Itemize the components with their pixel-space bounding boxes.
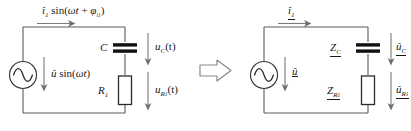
right-source-symbol — [251, 62, 278, 89]
left-resistor-symbol — [119, 76, 132, 105]
right-capacitor-voltage-label: ûC — [396, 41, 406, 56]
left-resistor-voltage-label: uR1(t) — [155, 84, 178, 98]
right-resistor-voltage-label: ûR1 — [396, 84, 409, 99]
right-capacitor-impedance-label: ZC — [330, 42, 341, 57]
right-capacitor-symbol — [356, 43, 380, 53]
implies-arrow-shape — [200, 60, 231, 81]
left-capacitor-voltage-label: uC(t) — [155, 41, 176, 55]
left-source-symbol — [10, 62, 37, 89]
left-source-voltage-label: û sin(ωt) — [51, 68, 90, 79]
right-current-label: î1 — [288, 5, 295, 20]
circuit-drawing — [0, 0, 411, 131]
left-capacitor-symbol — [113, 43, 137, 53]
right-source-voltage-label: û — [292, 66, 298, 77]
right-resistor-impedance-label: ZR1 — [327, 85, 340, 100]
right-circuit-wires — [264, 27, 368, 113]
circuit-figure: î1 sin(ωt + φi1) û sin(ωt) C uC(t) R1 uR… — [0, 0, 411, 131]
right-resistor-symbol — [362, 76, 375, 105]
left-resistor-name-label: R1 — [98, 85, 108, 99]
left-current-label: î1 sin(ωt + φi1) — [42, 5, 104, 19]
left-capacitor-name-label: C — [100, 42, 107, 53]
